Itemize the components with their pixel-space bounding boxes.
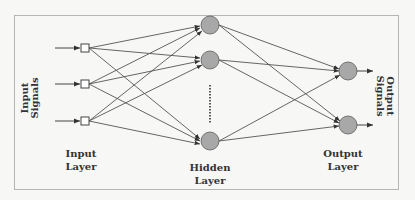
input-layer-line2: Layer (66, 161, 98, 172)
input-node (81, 44, 89, 52)
input-signal-arrows (55, 48, 80, 121)
hidden-output-connections (219, 25, 340, 141)
hidden-layer-line1: Hidden (190, 162, 232, 173)
output-signal-arrows (357, 71, 373, 125)
hidden-node (201, 51, 219, 69)
input-layer-label: Input Layer (66, 148, 98, 172)
input-node (81, 117, 89, 125)
output-signals-line2: Signals (375, 75, 386, 117)
hidden-node (201, 16, 219, 34)
input-signals-line2: Signals (29, 77, 40, 119)
hidden-node (201, 132, 219, 150)
input-layer-nodes (81, 44, 89, 125)
input-node (81, 80, 89, 88)
output-node (339, 116, 357, 134)
output-layer-line2: Layer (328, 161, 360, 172)
output-layer-nodes (339, 62, 357, 134)
input-layer-line1: Input (66, 148, 97, 159)
output-layer-line1: Output (323, 148, 363, 159)
neural-network-diagram: Input Signals Output Signals Input Layer… (0, 0, 415, 200)
input-hidden-connections (89, 26, 202, 144)
output-node (339, 62, 357, 80)
input-signals-label: Input Signals (19, 77, 40, 119)
output-signals-label: Output Signals (375, 75, 396, 117)
hidden-layer-line2: Layer (195, 175, 227, 186)
hidden-layer-label: Hidden Layer (190, 162, 232, 186)
hidden-layer-nodes (201, 16, 219, 150)
output-layer-label: Output Layer (323, 148, 363, 172)
